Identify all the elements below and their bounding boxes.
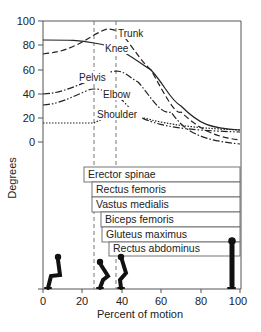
pelvis-label: Pelvis	[79, 72, 106, 83]
y-tick-label: 40	[23, 88, 35, 100]
x-tick-label: 20	[76, 295, 88, 307]
knee-label: Knee	[105, 43, 129, 54]
y-tick-label: 0	[29, 136, 35, 148]
seated-figure-icon	[45, 254, 61, 288]
leaning-figure-icon	[97, 259, 108, 288]
y-axis-label: Degrees	[6, 157, 18, 199]
sit-to-stand-chart: 100 80 60 40 20 0 Degrees 0 20 40 60 80 …	[0, 0, 261, 332]
muscle-activity-bars: Erector spinae Rectus femoris Vastus med…	[84, 167, 240, 256]
muscle-label: Rectus femoris	[96, 183, 166, 195]
muscle-label: Erector spinae	[88, 168, 156, 180]
y-tick-label: 20	[23, 112, 35, 124]
elbow-label: Elbow	[103, 89, 131, 100]
muscle-label: Biceps femoris	[105, 213, 174, 225]
y-tick-label: 60	[23, 64, 35, 76]
trunk-label: Trunk	[118, 28, 144, 39]
y-tick-label: 80	[23, 39, 35, 51]
x-tick-label: 0	[40, 295, 46, 307]
y-axis: 100 80 60 40 20 0 Degrees	[6, 15, 43, 199]
x-axis: 0 20 40 60 80 100 Percent of motion	[40, 289, 247, 320]
rising-figure-icon	[118, 254, 126, 288]
curves	[43, 29, 240, 144]
shoulder-label: Shoulder	[97, 109, 138, 120]
trunk-curve	[43, 29, 240, 140]
x-axis-label: Percent of motion	[97, 308, 183, 320]
x-tick-label: 80	[195, 295, 207, 307]
muscle-label: Rectus abdominus	[113, 242, 200, 254]
curve-labels: Trunk Knee Pelvis Elbow Shoulder	[78, 27, 145, 120]
x-tick-label: 100	[229, 295, 247, 307]
muscle-label: Gluteus maximus	[106, 228, 187, 240]
x-tick-label: 40	[116, 295, 128, 307]
muscle-label: Vastus medialis	[96, 198, 169, 210]
x-tick-label: 60	[155, 295, 167, 307]
y-tick-label: 100	[17, 15, 35, 27]
